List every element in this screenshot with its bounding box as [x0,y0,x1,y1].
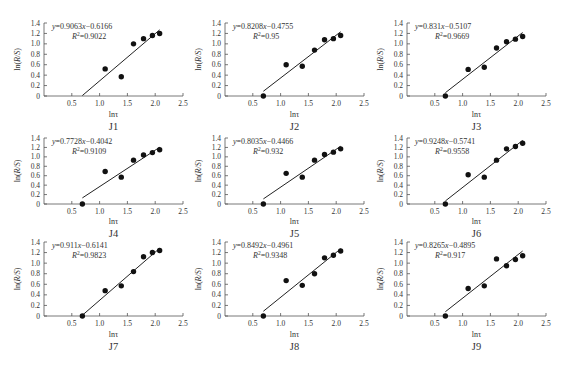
y-tick-label: 1.4 [31,134,41,143]
x-tick-label: 2.5 [359,319,369,328]
x-tick-label: 1.5 [123,319,133,328]
x-tick-label: 1.0 [458,319,468,328]
data-point [520,34,525,39]
y-tick-label: 0.2 [31,81,41,90]
y-tick-label: 0.8 [394,162,404,171]
regression-equation: y=0.911x−0.6141 [51,241,108,250]
x-tick-label: 2.0 [514,207,524,216]
data-point [482,65,487,70]
r-squared: R2=0.9022 [71,31,106,41]
data-point [119,174,124,179]
x-tick-label: 2.0 [332,319,342,328]
data-point [331,149,336,154]
x-axis-title: lnτ [290,217,300,226]
data-point [102,169,107,174]
panel-j4: 00.20.40.60.81.01.21.40.51.01.52.02.5ln(… [13,134,188,240]
y-tick-label: 0 [399,92,403,101]
y-tick-label: 0.6 [212,280,222,289]
panel-title: J1 [109,121,118,132]
x-tick-label: 2.0 [514,319,524,328]
data-point [443,313,448,318]
y-tick-label: 1.4 [31,238,41,247]
y-tick-label: 1.2 [394,143,404,152]
x-tick-label: 0.5 [67,207,77,216]
y-tick-label: 0.8 [31,269,41,278]
panel-title: J8 [290,341,299,352]
y-tick-label: 0.6 [212,60,222,69]
x-tick-label: 2.5 [178,319,188,328]
data-point [131,41,136,46]
data-point [331,253,336,258]
y-tick-label: 1.0 [212,259,222,268]
x-tick-label: 1.0 [95,319,105,328]
y-tick-label: 1.2 [31,143,41,152]
panel-j5: 00.20.40.60.81.01.21.40.51.01.52.02.5ln(… [194,134,369,240]
regression-equation: y=0.7728x−0.4042 [51,137,112,146]
chart-canvas: 00.20.40.60.81.01.21.40.51.01.52.02.5ln(… [0,0,569,367]
x-tick-label: 2.5 [541,99,551,108]
r-squared: R2=0.9669 [434,31,469,41]
data-point [513,36,518,41]
y-axis-title: ln(R/S) [194,159,203,182]
r-squared: R2=0.9823 [71,250,106,260]
data-point [150,250,155,255]
y-tick-label: 1.2 [212,29,222,38]
data-point [300,283,305,288]
x-tick-label: 2.5 [359,99,369,108]
data-point [261,201,266,206]
data-point [141,36,146,41]
x-tick-label: 1.0 [458,207,468,216]
panel-title: J4 [109,228,119,239]
regression-equation: y=0.8492x−0.4961 [232,241,293,250]
data-point [300,64,305,69]
x-tick-label: 2.5 [178,207,188,216]
data-point [443,93,448,98]
x-tick-label: 1.0 [276,207,286,216]
data-point [312,47,317,52]
y-tick-label: 0 [36,200,40,209]
data-point [338,248,343,253]
y-axis-title: ln(R/S) [376,159,385,182]
y-tick-label: 1.4 [394,134,404,143]
y-tick-label: 1.0 [394,259,404,268]
data-point [283,62,288,67]
x-axis-title: lnτ [290,110,300,119]
data-point [494,45,499,50]
y-tick-label: 0 [399,312,403,321]
x-tick-label: 2.0 [151,99,161,108]
data-point [131,269,136,274]
data-point [494,256,499,261]
data-point [150,33,155,38]
x-tick-label: 0.5 [248,99,258,108]
data-point [283,278,288,283]
y-tick-label: 1.2 [31,29,41,38]
y-tick-label: 1.0 [31,39,41,48]
x-tick-label: 1.0 [95,99,105,108]
y-tick-label: 0.2 [212,81,222,90]
data-point [465,172,470,177]
x-tick-label: 2.5 [541,319,551,328]
x-tick-label: 1.0 [458,99,468,108]
regression-line [445,33,522,93]
y-tick-label: 0 [217,92,221,101]
panel-j1: 00.20.40.60.81.01.21.40.51.01.52.02.5ln(… [13,19,188,133]
data-point [80,201,85,206]
data-point [520,140,525,145]
y-tick-label: 0.6 [31,60,41,69]
y-axis-title: ln(R/S) [194,267,203,290]
panel-title: J5 [290,228,299,239]
figure-grid: 00.20.40.60.81.01.21.40.51.01.52.02.5ln(… [0,0,569,367]
x-tick-label: 1.5 [123,207,133,216]
x-tick-label: 0.5 [67,99,77,108]
y-tick-label: 0.6 [31,171,41,180]
y-tick-label: 0.2 [394,81,404,90]
panel-j2: 00.20.40.60.81.01.21.40.51.01.52.02.5ln(… [194,19,369,133]
y-tick-label: 1.4 [394,238,404,247]
y-tick-label: 1.0 [31,259,41,268]
y-tick-label: 1.4 [394,19,404,28]
regression-equation: y=0.8265x−0.4895 [414,241,475,250]
y-axis-title: ln(R/S) [376,267,385,290]
regression-equation: y=0.831x−0.5107 [414,22,471,31]
x-tick-label: 2.0 [151,207,161,216]
y-tick-label: 1.2 [394,248,404,257]
